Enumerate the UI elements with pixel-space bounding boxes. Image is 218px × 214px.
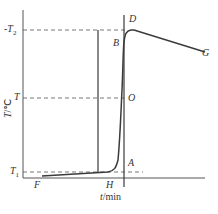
point-d-label: D [129,14,136,24]
point-o-label: O [128,93,135,103]
t1-label: T1 [10,166,19,179]
y-axis-var: T [2,112,13,118]
y-axis-unit: /℃ [2,99,13,113]
y-axis-title: T/℃ [3,99,13,118]
t-var: T [14,91,20,102]
t2-label: -T2 [4,24,16,37]
point-g-label: G [202,48,209,58]
point-a-label: A [128,158,134,168]
x-axis-unit: /min [103,191,121,202]
point-h-label: H [106,180,113,190]
point-f-label: F [34,180,40,190]
point-b-label: B [113,38,119,48]
t1-sub: 1 [16,171,20,179]
x-axis-title: t/min [100,192,121,202]
t2-sub: 2 [13,29,17,37]
t-label: T [14,92,20,102]
